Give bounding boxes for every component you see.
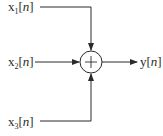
y-close-bracket: ] bbox=[157, 54, 161, 69]
input-label-x3: x3[n] bbox=[8, 115, 34, 134]
input-label-x1: x1[n] bbox=[8, 0, 34, 19]
output-label-y: y[n] bbox=[140, 55, 162, 69]
x2-close-bracket: ] bbox=[29, 54, 33, 69]
x1-signal-line bbox=[40, 7, 91, 50]
summing-junction bbox=[80, 51, 102, 73]
x3-close-bracket: ] bbox=[29, 114, 33, 129]
x1-close-bracket: ] bbox=[29, 0, 33, 14]
input-label-x2: x2[n] bbox=[8, 55, 34, 74]
x3-signal-line bbox=[40, 74, 91, 121]
